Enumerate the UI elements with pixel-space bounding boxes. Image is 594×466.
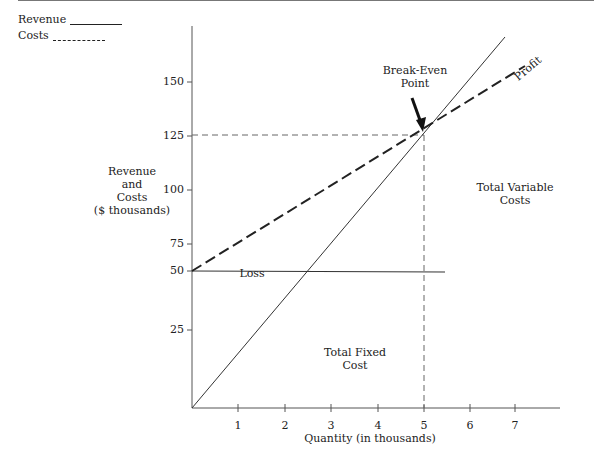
y-axis-label: Revenue and Costs ($ thousands) — [82, 165, 182, 217]
y-axis-label-line: Costs — [82, 191, 182, 204]
tfc-line: Cost — [300, 359, 410, 372]
fixed-cost-line — [192, 271, 445, 272]
y-tick-125: 125 — [158, 129, 184, 142]
y-tick-25: 25 — [158, 323, 184, 336]
tvc-line: Costs — [455, 194, 575, 207]
x-tick-6: 6 — [464, 419, 476, 432]
break-even-label-line: Break-Even — [375, 64, 455, 77]
x-tick-5: 5 — [418, 419, 430, 432]
chart-plot — [0, 0, 594, 466]
x-tick-2: 2 — [279, 419, 291, 432]
y-tick-75: 75 — [158, 237, 184, 250]
x-tick-1: 1 — [232, 419, 244, 432]
x-axis-label: Quantity (in thousands) — [290, 432, 450, 445]
x-tick-7: 7 — [509, 419, 521, 432]
tfc-line: Total Fixed — [300, 346, 410, 359]
y-tick-50: 50 — [158, 264, 184, 277]
y-ticks — [187, 82, 192, 330]
y-axis-label-line: ($ thousands) — [82, 204, 182, 217]
y-tick-150: 150 — [158, 75, 184, 88]
break-even-label: Break-Even Point — [375, 64, 455, 90]
costs-line — [192, 66, 525, 271]
break-even-arrowhead — [416, 117, 426, 132]
x-tick-4: 4 — [372, 419, 384, 432]
tvc-line: Total Variable — [455, 181, 575, 194]
break-even-label-line: Point — [375, 77, 455, 90]
y-axis-label-line: and — [82, 178, 182, 191]
total-fixed-cost-label: Total Fixed Cost — [300, 346, 410, 372]
x-tick-3: 3 — [325, 419, 337, 432]
total-variable-costs-label: Total Variable Costs — [455, 181, 575, 207]
y-axis-label-line: Revenue — [82, 165, 182, 178]
loss-label: Loss — [232, 267, 272, 280]
